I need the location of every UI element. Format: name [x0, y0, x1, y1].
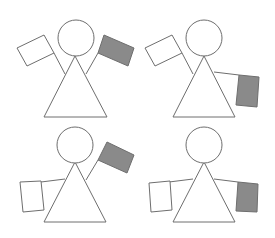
figure-top-right	[145, 20, 259, 117]
right-flag-gray	[98, 35, 134, 66]
right-arm	[214, 72, 239, 75]
figure-bottom-left	[20, 127, 134, 222]
right-flag-gray	[236, 182, 258, 212]
left-flag-white	[20, 181, 44, 212]
right-arm	[214, 179, 238, 182]
right-arm	[86, 160, 98, 180]
body-triangle	[44, 162, 106, 222]
figure-bottom-right	[149, 127, 258, 222]
right-arm	[86, 53, 98, 74]
body-triangle	[173, 162, 235, 222]
left-arm	[41, 179, 65, 182]
head-circle	[186, 127, 222, 163]
left-flag-white	[149, 181, 172, 212]
head-circle	[57, 127, 93, 163]
semaphore-diagram	[0, 0, 275, 238]
left-flag-white	[17, 35, 54, 66]
body-triangle	[44, 56, 107, 117]
body-triangle	[173, 56, 235, 117]
left-arm	[182, 53, 193, 74]
head-circle	[58, 20, 94, 56]
left-flag-white	[145, 35, 182, 66]
right-flag-gray	[236, 75, 259, 107]
figure-top-left	[17, 20, 134, 117]
left-arm	[169, 179, 193, 182]
head-circle	[186, 20, 222, 56]
left-arm	[54, 53, 65, 74]
right-flag-gray	[98, 142, 134, 173]
